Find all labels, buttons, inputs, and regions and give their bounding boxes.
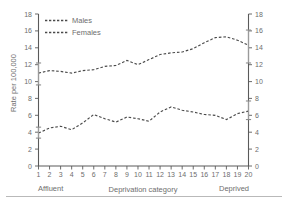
x-tick-label: 7 [103,171,107,178]
x-tick-label: 15 [189,171,197,178]
x-tick-label: 14 [178,171,186,178]
footer-divider [6,196,282,197]
x-tick-label: 3 [59,171,63,178]
x-tick-label: 18 [222,171,230,178]
y-tick-label-left: 2 [28,146,32,153]
y-tick-label-left: 10 [24,78,32,85]
x-tick-label: 17 [211,171,219,178]
y-axis-right-ticks: 0 2 4 6 8 10 12 14 16 18 [249,11,263,170]
y-tick-label-right: 10 [255,78,263,85]
y-tick-label-left: 6 [28,112,32,119]
x-tick-label: 9 [125,171,129,178]
y-tick-label-left: 8 [28,95,32,102]
x-tick-label: 4 [70,171,74,178]
x-tick-label: 8 [114,171,118,178]
x-tick-label: 10 [134,171,142,178]
y-tick-label-left: 4 [28,129,32,136]
x-tick-label: 19 [234,171,242,178]
y-tick-label-right: 0 [255,163,259,170]
y-tick-label-right: 8 [255,95,259,102]
x-tick-label: 13 [167,171,175,178]
x-axis-right-end-label: Deprived [219,184,249,193]
y-tick-label-left: 18 [24,11,32,18]
y-tick-label-right: 12 [255,61,263,68]
series-line-males [39,37,249,73]
y-axis-label: Rate per 100,000 [9,54,18,112]
y-tick-label-right: 6 [255,112,259,119]
series-line-females [39,107,249,133]
chart-legend: Males Females [45,16,101,37]
x-axis-ticks: 1234567891011121314151617181920 [37,166,253,178]
x-tick-label: 6 [92,171,96,178]
plot-area [36,30,251,138]
y-tick-label-left: 14 [24,44,32,51]
y-tick-label-right: 4 [255,129,259,136]
y-tick-label-right: 16 [255,27,263,34]
y-tick-label-left: 0 [28,163,32,170]
chart-figure: Rate per 100,000 0 2 4 6 8 10 12 14 [0,0,287,211]
deprivation-rate-line-chart: Rate per 100,000 0 2 4 6 8 10 12 14 [0,0,287,211]
legend-label-males: Males [72,16,92,25]
x-axis-label: Deprivation category [109,185,178,194]
x-tick-label: 11 [145,171,152,178]
y-axis-left-ticks: 0 2 4 6 8 10 12 14 16 18 [24,11,38,170]
x-tick-label: 12 [156,171,164,178]
y-tick-label-right: 14 [255,44,263,51]
legend-label-females: Females [72,28,101,37]
y-tick-label-left: 16 [24,27,32,34]
x-tick-label: 2 [48,171,52,178]
x-tick-label: 1 [37,171,41,178]
x-tick-label: 20 [245,171,253,178]
x-tick-label: 5 [81,171,85,178]
y-tick-label-right: 2 [255,146,259,153]
y-tick-label-right: 18 [255,11,263,18]
x-tick-label: 16 [200,171,208,178]
y-tick-label-left: 12 [24,61,32,68]
x-axis-left-end-label: Affluent [38,184,64,193]
